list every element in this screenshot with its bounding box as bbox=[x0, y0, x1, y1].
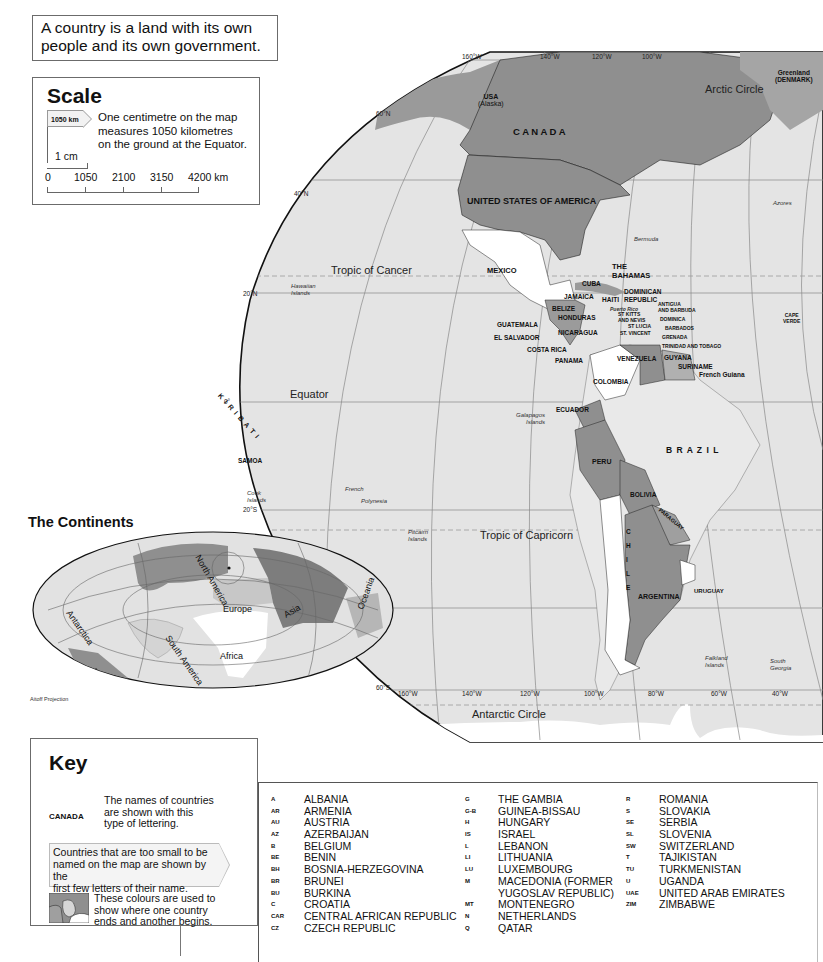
label-line: Islands bbox=[526, 419, 545, 425]
scale-tag-text: 1050 km bbox=[51, 116, 79, 123]
abbreviation-code: BU bbox=[271, 888, 301, 900]
place-label-cook-islands: CookIslands bbox=[247, 490, 266, 503]
longitude-label: 60°W bbox=[711, 690, 727, 697]
country-label-st-lucia: ST LUCIA bbox=[628, 323, 651, 329]
abbreviation-code: L bbox=[465, 841, 495, 853]
key-text-line: named on the map are shown by the bbox=[53, 858, 216, 882]
intro-box: A country is a land with its own people … bbox=[32, 15, 278, 61]
abbreviation-country-name: ROMANIA bbox=[659, 794, 708, 806]
label-line: THE bbox=[612, 262, 627, 271]
longitude-label: 100°W bbox=[642, 53, 662, 60]
continents-map: North America South America Europe Asia … bbox=[28, 528, 398, 693]
country-label-belize: BELIZE bbox=[552, 305, 575, 312]
label-line: Greenland bbox=[778, 69, 810, 76]
country-label-uruguay: URUGUAY bbox=[694, 588, 724, 594]
abbreviation-code: CZ bbox=[271, 923, 301, 935]
longitude-label: 80°W bbox=[648, 690, 664, 697]
label-line: AND BARBUDA bbox=[658, 307, 696, 313]
abbreviation-code: TU bbox=[626, 864, 656, 876]
country-label-bolivia: BOLIVIA bbox=[630, 491, 656, 498]
place-label-azores: Azores bbox=[773, 200, 792, 206]
label-line: Falkland bbox=[705, 655, 728, 661]
key-abbreviation-callout: Countries that are too small to be named… bbox=[49, 843, 219, 887]
key-text-line: type of lettering. bbox=[104, 818, 214, 830]
abbreviation-code: AR bbox=[271, 806, 301, 818]
place-label-bermuda: Bermuda bbox=[634, 236, 658, 242]
continent-label: Africa bbox=[220, 651, 243, 661]
scale-description-line: One centimetre on the map bbox=[98, 111, 247, 125]
abbreviation-country-name: CENTRAL AFRICAN REPUBLIC bbox=[304, 911, 456, 923]
place-label-pitcairn: PitcairnIslands bbox=[408, 529, 428, 542]
country-label-antigua: ANTIGUAAND BARBUDA bbox=[658, 302, 696, 313]
scale-axis bbox=[47, 186, 199, 193]
abbreviation-code: M bbox=[465, 876, 495, 888]
label-letter: C bbox=[626, 528, 631, 535]
abbreviation-code: U bbox=[626, 876, 656, 888]
antarctic-circle-label: Antarctic Circle bbox=[472, 708, 546, 720]
country-label-bahamas: THEBAHAMAS bbox=[612, 262, 650, 280]
abbreviation-code: S bbox=[626, 806, 656, 818]
abbreviation-code: B bbox=[271, 841, 301, 853]
country-label-dominican-republic: DOMINICANREPUBLIC bbox=[624, 288, 662, 303]
key-text-line: These colours are used to bbox=[94, 893, 215, 905]
country-label-usa-alaska: USA(Alaska) bbox=[478, 93, 504, 107]
country-label-st-kitts: ST KITTSAND NEVIS bbox=[618, 312, 645, 323]
abbreviation-country-name: UGANDA bbox=[659, 876, 704, 888]
label-line: Islands bbox=[291, 290, 310, 296]
country-label-nicaragua: NICARAGUA bbox=[558, 329, 598, 336]
label-line: Hawaiian bbox=[291, 283, 316, 289]
longitude-label: 120°W bbox=[592, 53, 612, 60]
abbreviation-code: SL bbox=[626, 829, 656, 841]
abbreviation-code: LI bbox=[465, 852, 495, 864]
label-line: (Alaska) bbox=[478, 100, 504, 107]
scale-cm-label: 1 cm bbox=[55, 150, 78, 162]
latitude-label: 60°N bbox=[376, 110, 391, 117]
key-box: Key CANADA The names of countries are sh… bbox=[30, 738, 258, 926]
abbreviation-code: AZ bbox=[271, 829, 301, 841]
label-line: REPUBLIC bbox=[624, 296, 657, 303]
label-line: Pitcairn bbox=[408, 529, 428, 535]
label-line: Islands bbox=[705, 662, 724, 668]
country-label-dominica: DOMINICA bbox=[660, 316, 685, 322]
abbreviation-code: Q bbox=[465, 923, 495, 935]
scale-tick-label: 2100 bbox=[112, 171, 135, 183]
label-line: South bbox=[770, 658, 786, 664]
latitude-label: 20°N bbox=[243, 290, 258, 297]
abbreviation-code: SW bbox=[626, 841, 656, 853]
label-line: AND NEVIS bbox=[618, 317, 645, 323]
label-line: VERDE bbox=[783, 318, 800, 324]
country-label-honduras: HONDURAS bbox=[558, 314, 596, 321]
abbreviation-country-name: ALBANIA bbox=[304, 794, 348, 806]
abbreviation-country-name: CZECH REPUBLIC bbox=[304, 923, 396, 935]
scale-title: Scale bbox=[47, 84, 102, 108]
label-line: Polynesia bbox=[345, 498, 387, 504]
scale-tick-label: 1050 bbox=[74, 171, 97, 183]
label-line: Islands bbox=[408, 536, 427, 542]
label-line: Islands bbox=[247, 497, 266, 503]
country-label-samoa: SAMOA bbox=[238, 457, 262, 464]
label-line: Cook bbox=[247, 490, 261, 496]
scale-tick-label: 4200 km bbox=[188, 171, 228, 183]
latitude-label: 20°S bbox=[243, 506, 257, 513]
longitude-label: 120°W bbox=[520, 690, 540, 697]
longitude-label: 160°W bbox=[398, 690, 418, 697]
longitude-label: 160°W bbox=[462, 53, 482, 60]
key-text-colours: These colours are used to show where one… bbox=[94, 893, 215, 928]
key-text-line: The names of countries bbox=[104, 795, 214, 807]
country-label-usa: UNITED STATES OF AMERICA bbox=[467, 196, 596, 206]
longitude-label: 100°W bbox=[584, 690, 604, 697]
place-label-falkland: FalklandIslands bbox=[705, 655, 728, 668]
label-line: USA bbox=[483, 93, 498, 100]
abbreviation-code: UAE bbox=[626, 888, 656, 900]
intro-line: people and its own government. bbox=[41, 37, 269, 55]
scale-cm-bar bbox=[47, 163, 88, 169]
place-label-hawaii: HawaiianIslands bbox=[291, 283, 316, 296]
tropic-of-capricorn-label: Tropic of Capricorn bbox=[480, 529, 573, 541]
label-line: BAHAMAS bbox=[612, 271, 650, 280]
country-label-grenada: GRENADA bbox=[662, 334, 687, 340]
abbreviation-code: G-B bbox=[465, 806, 495, 818]
label-line: French bbox=[345, 486, 364, 492]
abbreviation-code: H bbox=[465, 817, 495, 829]
scale-description-line: measures 1050 kilometres bbox=[98, 125, 247, 139]
scale-tick-label: 3150 bbox=[150, 171, 173, 183]
